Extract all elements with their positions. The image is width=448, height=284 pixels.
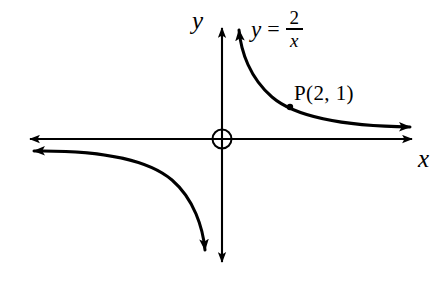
curve-branch-negative xyxy=(34,151,205,250)
axis-label-y: y xyxy=(192,8,203,33)
fraction-denominator: x xyxy=(288,30,300,50)
graph-figure: y x P(2, 1) y = 2 x xyxy=(0,0,448,284)
origin-marker-icon xyxy=(213,130,232,149)
axis-label-x: x xyxy=(418,146,429,171)
coordinate-plane-svg xyxy=(0,0,448,284)
point-label-p: P(2, 1) xyxy=(294,83,354,104)
equation-equals-sign: = xyxy=(266,18,280,40)
fraction-numerator: 2 xyxy=(287,8,301,28)
equation-fraction: 2 x xyxy=(286,8,303,50)
point-p-marker-icon xyxy=(287,104,293,110)
equation-label: y = 2 x xyxy=(251,8,303,50)
equation-lhs: y xyxy=(251,18,261,41)
